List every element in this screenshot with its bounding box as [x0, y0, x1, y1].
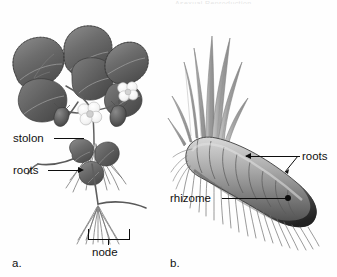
node-bracket-tick [108, 239, 109, 245]
botanical-figure: Asexual Reproduction [0, 0, 337, 277]
leader-line-rhizome [222, 198, 288, 199]
arrowhead-rhizome [285, 195, 291, 201]
arrowhead-roots-left [78, 167, 84, 173]
label-node: node [92, 246, 118, 258]
label-roots-left: roots [13, 164, 39, 176]
arrowhead-roots-right-upper [245, 153, 251, 159]
label-roots-right: roots [302, 150, 328, 162]
leader-line-roots-left [48, 170, 80, 171]
page-header-remnant: Asexual Reproduction [175, 0, 337, 4]
panel-letter-b: b. [170, 257, 180, 269]
label-stolon: stolon [13, 132, 44, 144]
panel-letter-a: a. [12, 257, 22, 269]
label-rhizome: rhizome [170, 192, 211, 204]
leader-line-stolon [54, 138, 84, 139]
leader-line-roots-right-branch [277, 156, 299, 178]
node-bracket [88, 229, 130, 240]
iris-rhizome-illustration [168, 10, 337, 250]
